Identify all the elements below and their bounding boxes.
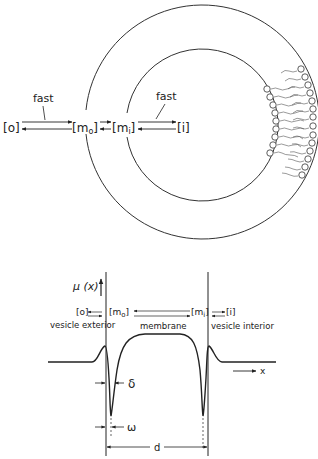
region-label-interior: vesicle interior [211,321,274,331]
x-axis-label: x [260,366,266,376]
region-label-exterior: vesicle exterior [50,320,116,330]
leader-line [156,104,165,119]
species-membrane-inner-label: [mi] [112,121,135,136]
rate-label-fast-left: fast [33,92,54,105]
profile-species-outer: [o] [76,307,89,317]
dimension-d-label: d [154,442,160,453]
species-inner-label: [i] [177,121,190,135]
potential-curve [48,334,276,416]
exchange-arrows [22,122,176,129]
rate-label-fast-right: fast [156,90,177,103]
profile-species-inner: [i] [226,307,236,317]
species-outer-label: [o] [3,121,20,135]
leader-line [43,106,45,120]
species-membrane-outer-label: [mo] [72,121,98,136]
region-label-membrane: membrane [140,321,187,331]
potential-profile-diagram: μ (x) [o] [mo] [mi] [i] vesicle exterior… [48,272,276,456]
figure: [o] [mo] [mi] [i] fast fast μ (x) [o] [0,0,318,459]
vesicle-diagram: [o] [mo] [mi] [i] fast fast [3,5,318,239]
profile-species-mo: [mo] [109,307,129,319]
profile-species-mi: [mi] [191,307,209,319]
dimension-omega-label: ω [127,421,136,434]
dimension-delta-label: δ [128,377,135,391]
y-axis-label: μ (x) [72,280,99,293]
vesicle-inner-wall [127,49,278,201]
